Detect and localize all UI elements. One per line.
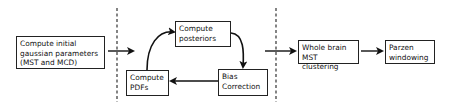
arrow-pdfs-to-posteriors: [147, 32, 174, 70]
stage-whole-brain-mst-clustering: Whole brain MST clustering: [298, 40, 359, 64]
stage-parzen-windowing: Parzen windowing: [385, 40, 435, 64]
stage-bias-correction: Bias Correction: [218, 69, 268, 96]
stage-compute-initial-parameters: Compute initial gaussian parameters (MST…: [16, 36, 105, 69]
stage-compute-posteriors: Compute posteriors: [175, 21, 231, 47]
stage-compute-pdfs: Compute PDFs: [126, 70, 169, 96]
arrow-posteriors-to-bias: [231, 33, 243, 67]
